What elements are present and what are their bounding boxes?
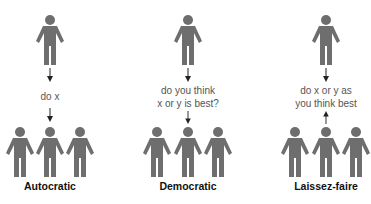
member-person-icon: [5, 127, 35, 177]
member-person-icon: [65, 127, 95, 177]
member-person-icon: [280, 127, 310, 177]
leader-person-icon: [35, 15, 65, 65]
member-person-icon: [35, 127, 65, 177]
arrow-down-icon: [184, 68, 192, 82]
caption-line: x or y is best?: [157, 97, 219, 110]
leader-person-icon: [173, 15, 203, 65]
caption-line: do you think: [157, 84, 219, 97]
arrow-up-icon: [322, 111, 330, 124]
arrow-down-icon: [184, 111, 192, 124]
style-label: Laissez-faire: [294, 180, 358, 192]
arrow-down-icon: [46, 68, 54, 82]
member-person-icon: [311, 127, 341, 177]
member-person-icon: [142, 127, 172, 177]
instruction-caption: do x: [41, 90, 60, 103]
style-label: Democratic: [159, 180, 216, 192]
caption-line: you think best: [295, 97, 357, 110]
caption-line: do x: [41, 90, 60, 103]
member-person-icon: [173, 127, 203, 177]
instruction-caption: do x or y as you think best: [295, 84, 357, 110]
member-person-icon: [203, 127, 233, 177]
arrow-down-icon: [46, 108, 54, 122]
arrow-down-icon: [322, 68, 330, 82]
leader-person-icon: [311, 15, 341, 65]
style-label: Autocratic: [24, 180, 76, 192]
instruction-caption: do you think x or y is best?: [157, 84, 219, 110]
caption-line: do x or y as: [295, 84, 357, 97]
member-person-icon: [341, 127, 371, 177]
